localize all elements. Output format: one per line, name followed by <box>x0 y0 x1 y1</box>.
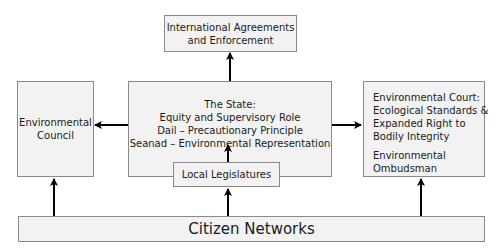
environmental-court-box: Environmental Court: Ecological Standard… <box>363 81 485 177</box>
court-line-2: Ecological Standards & <box>373 104 488 117</box>
ombudsman-line-2: Ombudsman <box>373 162 437 175</box>
local-legislatures-box: Local Legislatures <box>173 162 280 187</box>
court-line-1: Environmental Court: <box>373 91 480 104</box>
international-agreements-box: International Agreements and Enforcement <box>164 15 297 52</box>
council-line-2: Council <box>37 129 74 142</box>
court-line-3: Expanded Right to <box>373 117 466 130</box>
local-legislatures-label: Local Legislatures <box>182 168 271 181</box>
court-line-4: Bodily Integrity <box>373 130 449 143</box>
state-line-equity: Equity and Supervisory Role <box>160 111 301 124</box>
state-title: The State: <box>204 98 256 111</box>
ombudsman-line-1: Environmental <box>373 149 446 162</box>
citizen-networks-box: Citizen Networks <box>18 216 485 242</box>
international-line-1: International Agreements <box>167 21 295 34</box>
council-line-1: Environmental <box>19 116 92 129</box>
state-line-dail: Dail – Precautionary Principle <box>157 124 303 137</box>
state-line-seanad: Seanad – Environmental Representation <box>130 137 331 150</box>
citizen-networks-label: Citizen Networks <box>188 223 315 236</box>
international-line-2: and Enforcement <box>188 34 274 47</box>
environmental-council-box: Environmental Council <box>17 81 94 177</box>
